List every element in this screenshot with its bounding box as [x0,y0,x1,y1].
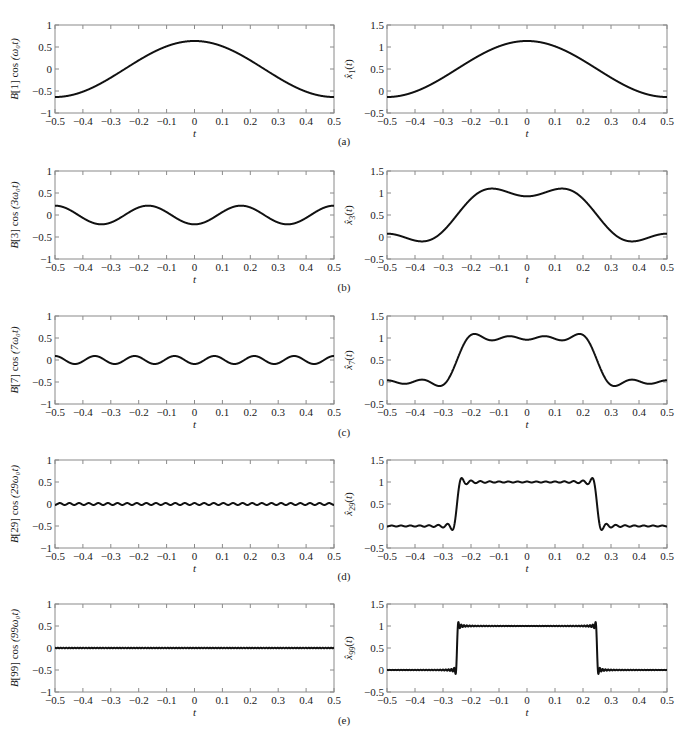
y-tick-label: −0.5 [32,664,52,676]
x-tick-label: 0.3 [271,261,285,273]
x-tick-label: −0.4 [405,406,425,418]
x-tick-label: 0 [524,694,530,706]
x-tick-label: 0.5 [327,115,341,127]
x-tick-label: 0.5 [660,694,674,706]
x-tick-label: 0.5 [660,115,674,127]
panel-a-left-plot: −0.5−0.4−0.3−0.2−0.100.10.20.30.40.5−1−0… [8,19,341,139]
y-tick-label: 0 [379,376,385,388]
fourier-series-figure: −0.5−0.4−0.3−0.2−0.100.10.20.30.40.5−1−0… [0,0,688,738]
y-tick-label: 0.5 [38,332,52,344]
panel-e-right-plot: −0.5−0.4−0.3−0.2−0.100.10.20.30.40.5−0.5… [342,598,674,718]
x-tick-label: 0.4 [299,694,313,706]
x-tick-label: 0.1 [548,694,562,706]
x-axis-label: t [525,418,529,430]
y-tick-label: 1 [379,620,385,632]
plot-frame [387,171,667,259]
y-tick-label: 1 [379,332,385,344]
y-tick-label: 1 [47,598,53,610]
y-tick-label: 0.5 [370,63,384,75]
x-tick-label: 0.3 [604,261,618,273]
x-tick-label: 0.4 [632,694,646,706]
x-tick-label: 0.4 [632,406,646,418]
x-tick-label: −0.4 [405,694,425,706]
x-tick-label: −0.2 [129,694,149,706]
y-tick-label: 1.5 [370,19,384,31]
plot-frame [55,25,334,113]
y-tick-label: 1.5 [370,598,384,610]
y-axis-label: x̂3(t) [342,205,357,226]
y-tick-label: −0.5 [32,520,52,532]
signal-curve [55,41,334,97]
x-tick-label: −0.4 [73,406,93,418]
x-tick-label: −0.2 [129,115,149,127]
y-tick-label: −1 [40,107,52,119]
x-tick-label: −0.4 [73,115,93,127]
x-tick-label: −0.1 [489,261,509,273]
x-tick-label: −0.2 [129,261,149,273]
y-tick-label: 0.5 [370,354,384,366]
x-tick-label: 0.3 [604,115,618,127]
panel-a-right-plot: −0.5−0.4−0.3−0.2−0.100.10.20.30.40.5−0.5… [342,19,674,139]
plot-frame [387,460,667,548]
x-axis-label: t [193,418,197,430]
x-tick-label: 0.2 [576,115,590,127]
y-tick-label: −1 [40,686,52,698]
y-tick-label: 1 [47,165,53,177]
signal-curve [387,334,667,386]
y-tick-label: 0 [379,520,385,532]
y-tick-label: 1 [379,41,385,53]
x-tick-label: 0.1 [548,550,562,562]
panel-label: (a) [338,135,351,148]
panel-label: (d) [338,570,351,583]
y-tick-label: 0 [47,642,53,654]
y-tick-label: 0.5 [38,620,52,632]
x-tick-label: 0.3 [271,406,285,418]
x-tick-label: 0.2 [576,694,590,706]
signal-curve [387,41,667,97]
x-tick-label: −0.3 [101,406,121,418]
x-tick-label: 0.3 [271,115,285,127]
y-tick-label: 0.5 [370,209,384,221]
panel-label: (c) [338,426,351,439]
panel-e-left-plot: −0.5−0.4−0.3−0.2−0.100.10.20.30.40.5−1−0… [8,598,341,718]
x-tick-label: −0.1 [157,115,177,127]
y-axis-label: B[99] cos (99ω₀t) [8,609,21,688]
x-tick-label: 0 [192,694,198,706]
x-tick-label: −0.3 [433,550,453,562]
y-tick-label: 0.5 [38,476,52,488]
x-tick-label: 0.2 [576,406,590,418]
x-tick-label: −0.1 [489,694,509,706]
x-tick-label: −0.3 [101,694,121,706]
x-tick-label: 0.3 [604,406,618,418]
x-axis-label: t [525,273,529,285]
y-axis-label: x̂1(t) [342,59,357,80]
panel-b-left-plot: −0.5−0.4−0.3−0.2−0.100.10.20.30.40.5−1−0… [8,165,341,285]
y-tick-label: 0 [379,664,385,676]
x-tick-label: 0.4 [299,261,313,273]
y-tick-label: −1 [40,253,52,265]
x-axis-label: t [525,127,529,139]
x-tick-label: 0.5 [327,261,341,273]
x-tick-label: 0.1 [216,115,230,127]
x-tick-label: 0.3 [271,550,285,562]
y-tick-label: −1 [40,398,52,410]
y-tick-label: 1.5 [370,454,384,466]
x-tick-label: 0.1 [216,261,230,273]
x-tick-label: −0.1 [489,406,509,418]
x-tick-label: −0.2 [129,406,149,418]
x-tick-label: −0.3 [101,550,121,562]
y-tick-label: 1 [47,454,53,466]
panel-label: (e) [338,714,351,727]
signal-curve [55,648,334,649]
panel-d-right-plot: −0.5−0.4−0.3−0.2−0.100.10.20.30.40.5−0.5… [342,454,674,574]
x-tick-label: 0.5 [660,550,674,562]
signal-curve [387,189,667,242]
x-tick-label: 0 [192,406,198,418]
signal-curve [55,503,334,505]
x-tick-label: 0.2 [243,694,257,706]
x-tick-label: 0.1 [548,261,562,273]
panel-d-left-plot: −0.5−0.4−0.3−0.2−0.100.10.20.30.40.5−1−0… [8,454,341,574]
x-tick-label: −0.4 [405,550,425,562]
x-tick-label: 0.4 [632,550,646,562]
x-tick-label: −0.2 [461,694,481,706]
